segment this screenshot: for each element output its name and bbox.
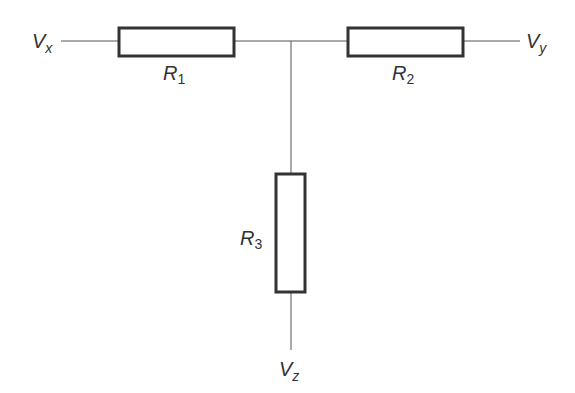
label-r2: R2 [392,62,414,87]
tee-network-diagram: Vx Vy Vz R1 R2 R3 [0,0,575,393]
label-r3: R3 [240,227,262,252]
label-vx: Vx [32,30,53,56]
resistor-r1 [119,28,234,56]
label-vz: Vz [279,358,299,384]
resistor-r3 [276,174,305,292]
label-r1: R1 [163,62,185,87]
label-vy: Vy [526,30,547,56]
resistor-r2 [348,28,463,56]
